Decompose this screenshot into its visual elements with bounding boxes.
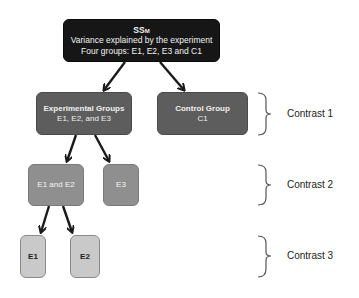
arrow-root-to-experimental [104, 62, 125, 90]
arrow-experimental-to-e3 [95, 135, 109, 161]
node-e1-and-e2: E1 and E2 [28, 164, 84, 206]
node-e3: E3 [103, 164, 139, 206]
root-node-ssm: SSM Variance explained by the experiment… [63, 19, 220, 62]
root-title: SSM [133, 25, 149, 35]
experimental-subtitle: E1, E2, and E3 [57, 114, 111, 124]
e2-title: E2 [80, 252, 90, 262]
brace-contrast-1 [258, 93, 271, 135]
brace-contrast-3 [258, 236, 271, 277]
node-control-group: Control Group C1 [157, 92, 248, 135]
node-e1: E1 [20, 235, 46, 278]
contrast-3-label: Contrast 3 [287, 250, 333, 261]
contrast-2-label: Contrast 2 [287, 179, 333, 190]
root-line-2: Four groups: E1, E2, E3 and C1 [81, 46, 202, 56]
brace-contrast-2 [258, 165, 271, 205]
node-e2: E2 [70, 235, 100, 278]
arrow-e1e2-to-e2 [63, 206, 72, 232]
e3-title: E3 [116, 180, 126, 190]
arrow-experimental-to-e1e2 [67, 135, 76, 161]
root-line-1: Variance explained by the experiment [71, 35, 213, 45]
node-experimental-groups: Experimental Groups E1, E2, and E3 [36, 92, 132, 135]
experimental-title: Experimental Groups [44, 104, 125, 114]
contrast-1-label: Contrast 1 [287, 108, 333, 119]
e1-title: E1 [28, 252, 38, 262]
e1e2-title: E1 and E2 [37, 180, 74, 190]
arrow-e1e2-to-e1 [41, 206, 49, 232]
arrow-root-to-control [160, 62, 184, 90]
control-title: Control Group [175, 104, 230, 114]
control-subtitle: C1 [197, 114, 207, 124]
